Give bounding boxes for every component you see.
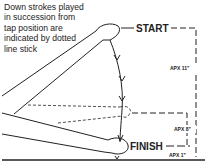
stick-dotted-position: [28, 105, 130, 123]
dimension-label-top: APX 11": [170, 65, 190, 71]
stick-finish-position: [2, 113, 128, 154]
stick-start-position: [2, 24, 120, 114]
contact-mark: [115, 156, 119, 159]
finish-label: FINISH: [130, 141, 163, 152]
arrow-head-icon: [114, 55, 125, 141]
stroke-path-arrow: [110, 40, 122, 142]
stroke-diagram: START APX 11" APX 8" FINISH APX 1": [0, 0, 205, 165]
start-label: START: [136, 23, 169, 34]
dimension-label-bottom: APX 1": [169, 152, 186, 158]
dimension-top: [171, 28, 196, 157]
dimension-label-mid: APX 8": [174, 126, 191, 132]
